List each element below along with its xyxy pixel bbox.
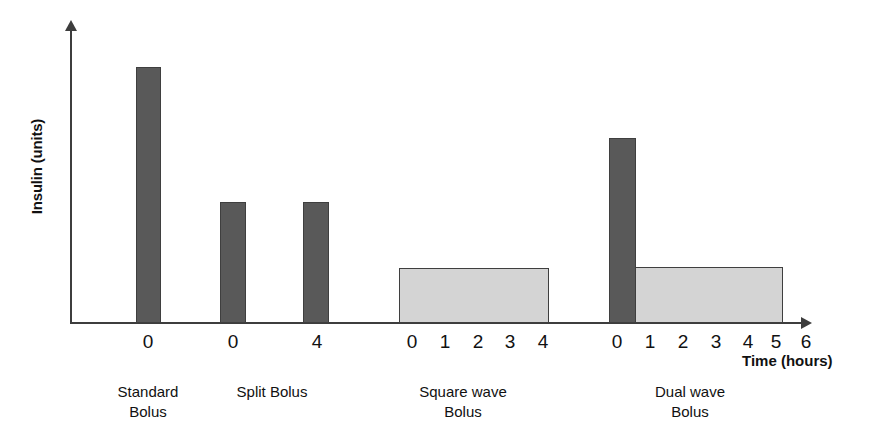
bar-split-4: [303, 202, 329, 323]
tick-dual-0: 0: [604, 331, 630, 353]
x-axis-title: Time (hours): [742, 352, 833, 369]
caption-squarewave-line2: Bolus: [363, 402, 563, 422]
tick-square-3: 3: [497, 331, 523, 353]
caption-dualwave-line2: Bolus: [590, 402, 790, 422]
tick-dual-5: 5: [763, 331, 789, 353]
tick-dual-1: 1: [637, 331, 663, 353]
tick-square-2: 2: [465, 331, 491, 353]
insulin-bolus-chart: Insulin (units) Time (hours) 00401234012…: [0, 0, 870, 446]
caption-squarewave-line1: Square wave: [363, 382, 563, 402]
bar-dualwave-0: [609, 138, 636, 323]
bar-dualwave-1-6: [635, 267, 783, 323]
tick-square-4: 4: [530, 331, 556, 353]
tick-square-1: 1: [432, 331, 458, 353]
caption-split-line1: Split Bolus: [172, 382, 372, 402]
tick-dual-2: 2: [670, 331, 696, 353]
bar-split-0: [220, 202, 246, 323]
caption-standard-line2: Bolus: [48, 402, 248, 422]
tick-dual-4: 4: [735, 331, 761, 353]
bar-standard-0: [136, 67, 161, 323]
tick-dual-3: 3: [703, 331, 729, 353]
tick-split-0: 0: [220, 331, 246, 353]
y-axis-line: [70, 30, 72, 323]
tick-split-4: 4: [304, 331, 330, 353]
tick-standard-0: 0: [135, 331, 161, 353]
caption-split: Split Bolus: [172, 382, 372, 402]
tick-square-0: 0: [399, 331, 425, 353]
y-axis-arrow-icon: [65, 20, 77, 31]
bar-squarewave-0-4: [399, 268, 549, 323]
caption-dualwave: Dual waveBolus: [590, 382, 790, 422]
x-axis-arrow-icon: [801, 317, 812, 329]
tick-dual-6: 6: [793, 331, 819, 353]
y-axis-title: Insulin (units): [28, 97, 45, 237]
caption-dualwave-line1: Dual wave: [590, 382, 790, 402]
caption-squarewave: Square waveBolus: [363, 382, 563, 422]
